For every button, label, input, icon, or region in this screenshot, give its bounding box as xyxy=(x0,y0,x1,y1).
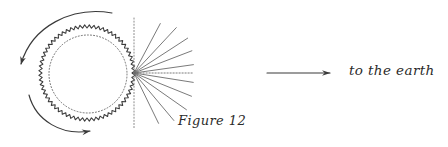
to-the-earth-label: to the earth xyxy=(349,62,435,78)
figure-diagram-12: Figure 12 to the earth xyxy=(0,0,448,147)
ray-6 xyxy=(134,73,193,82)
ray-0 xyxy=(134,24,160,73)
ray-1 xyxy=(134,28,176,73)
ray-fan xyxy=(134,24,193,124)
rotation-arrow-upper xyxy=(21,12,112,64)
ray-4 xyxy=(134,65,193,73)
sawtooth-circle xyxy=(39,25,135,121)
figure-caption: Figure 12 xyxy=(178,113,246,128)
dotted-inner-circle xyxy=(49,35,127,113)
